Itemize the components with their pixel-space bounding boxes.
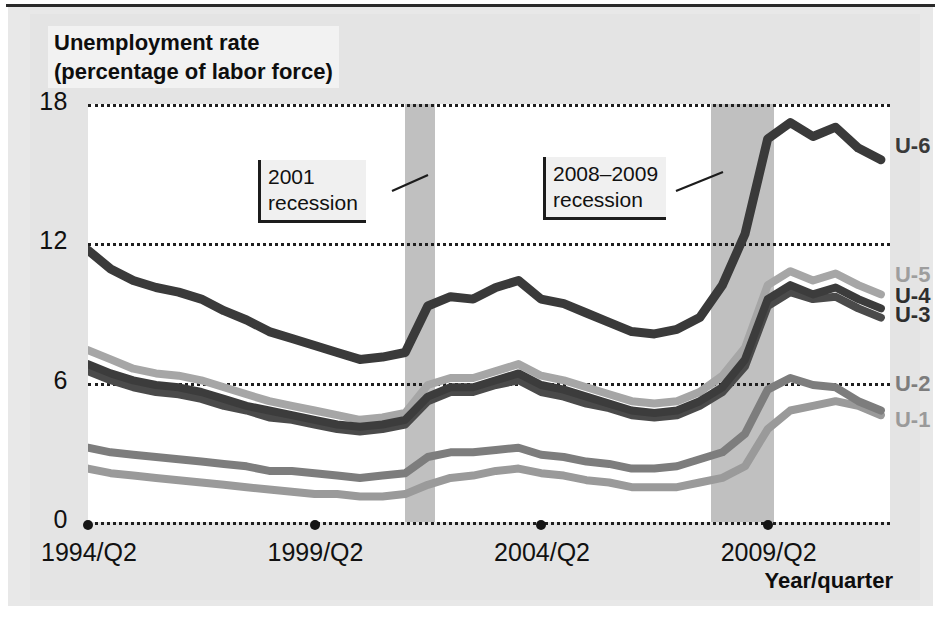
annotation-2001-line2: recession — [268, 190, 358, 216]
annotation-2001-recession: 2001 recession — [258, 160, 366, 223]
annotation-2008-2009-recession: 2008–2009 recession — [543, 157, 666, 220]
y-tick-label-18: 18 — [22, 87, 68, 116]
series-lines — [88, 104, 890, 522]
x-tick-dot-1999 — [310, 520, 320, 530]
annotation-2001-line1: 2001 — [268, 164, 358, 190]
annotation-2008-line1: 2008–2009 — [553, 161, 658, 187]
top-rule-divider — [6, 4, 935, 7]
x-tick-label-1994: 1994/Q2 — [41, 538, 137, 567]
annotation-2008-line2: recession — [553, 187, 658, 213]
series-label-u6: U-6 — [895, 133, 930, 159]
series-label-u3: U-3 — [895, 302, 930, 328]
x-axis-title: Year/quarter — [765, 568, 893, 594]
chart-title: Unemployment rate (percentage of labor f… — [48, 26, 339, 88]
x-tick-label-1999: 1999/Q2 — [268, 538, 364, 567]
chart-title-line2: (percentage of labor force) — [54, 57, 333, 86]
x-tick-label-2009: 2009/Q2 — [721, 538, 817, 567]
chart-title-line1: Unemployment rate — [54, 28, 333, 57]
y-tick-label-0: 0 — [22, 505, 68, 534]
series-label-u2: U-2 — [895, 371, 930, 397]
y-tick-label-12: 12 — [22, 226, 68, 255]
plot-area — [88, 104, 890, 522]
x-tick-dot-1994 — [83, 520, 93, 530]
y-tick-label-6: 6 — [22, 366, 68, 395]
x-tick-label-2004: 2004/Q2 — [494, 538, 590, 567]
figure-container: Unemployment rate (percentage of labor f… — [0, 0, 941, 622]
x-tick-dot-2009 — [763, 520, 773, 530]
series-label-u1: U-1 — [895, 407, 930, 433]
